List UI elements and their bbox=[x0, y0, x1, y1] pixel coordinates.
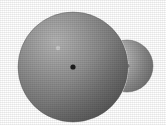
sphere-scene-svg bbox=[0, 0, 166, 125]
large-sphere bbox=[18, 12, 128, 122]
large-sphere-highlight-speck bbox=[56, 46, 60, 50]
sphere-scene-canvas bbox=[0, 0, 166, 125]
large-sphere-center-dot bbox=[70, 64, 75, 69]
